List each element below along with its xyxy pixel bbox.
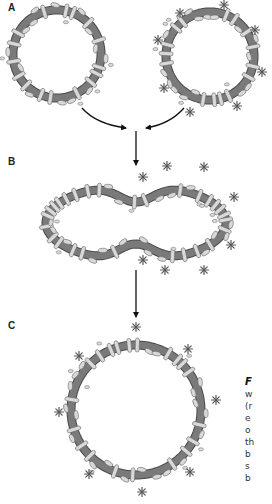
caption-fragment: w [245, 388, 272, 400]
peripheral-protein-icon [98, 248, 107, 253]
transmembrane-protein-icon [212, 93, 217, 107]
arrows [82, 108, 184, 317]
peripheral-protein-icon [6, 47, 11, 56]
panel-label-c: C [8, 320, 15, 331]
asterisk-marker-icon [139, 173, 148, 182]
peripheral-protein-icon [210, 15, 219, 20]
free-protein-icon [179, 101, 184, 104]
membrane-bilayer [166, 12, 254, 100]
vesicle-A-left [0, 2, 113, 106]
panel-label-a: A [8, 2, 15, 13]
asterisk-marker-icon [220, 1, 229, 10]
free-protein-icon [55, 220, 60, 223]
asterisk-marker-icon [132, 323, 141, 332]
arrow-right-curve-arrow-icon [146, 108, 184, 128]
transmembrane-protein-icon [200, 92, 206, 106]
panel-label-b: B [8, 156, 15, 167]
free-protein-icon [199, 204, 204, 207]
transmembrane-protein-icon [132, 195, 137, 209]
asterisk-marker-icon [160, 84, 169, 93]
caption-fragment: b [245, 448, 272, 460]
transmembrane-protein-icon [97, 183, 102, 197]
asterisk-marker-icon [230, 193, 239, 202]
asterisk-marker-icon [75, 352, 84, 361]
free-protein-icon [129, 209, 134, 212]
caption-fragment: b [245, 472, 272, 484]
transmembrane-protein-icon [65, 397, 79, 403]
vesicles [0, 2, 260, 483]
asterisk-marker-icon [139, 256, 148, 265]
free-protein-icon [171, 247, 176, 250]
asterisk-marker-icon [200, 266, 209, 275]
asterisk-marker-icon [227, 241, 236, 250]
caption-fragment: th [245, 436, 272, 448]
free-protein-icon [153, 48, 158, 51]
asterisk-marker-icon [258, 68, 267, 77]
asterisk-marker-icon [154, 36, 163, 45]
asterisk-marker-icon [186, 468, 195, 477]
asterisk-marker-icon [55, 408, 64, 417]
asterisk-marker-icon [200, 163, 209, 172]
asterisk-marker-icon [161, 266, 170, 275]
transmembrane-protein-icon [127, 338, 132, 352]
transmembrane-protein-icon [135, 338, 139, 352]
vesicle-B-fused [39, 183, 234, 264]
free-protein-icon [63, 21, 68, 24]
free-protein-icon [166, 18, 171, 21]
free-protein-icon [56, 251, 61, 254]
caption-fragment: e [245, 412, 272, 424]
free-protein-icon [224, 83, 229, 86]
peripheral-protein-icon [68, 381, 73, 390]
asterisk-marker-icon [176, 9, 185, 18]
free-protein-icon [163, 22, 168, 25]
caption-fragment: o [245, 424, 272, 436]
peripheral-protein-icon [194, 16, 203, 21]
arrow-left-curve-arrow-icon [82, 108, 126, 128]
transmembrane-protein-icon [159, 60, 173, 66]
caption-fragment: (r [245, 400, 272, 412]
free-protein-icon [187, 354, 192, 357]
free-protein-icon [212, 219, 217, 222]
peripheral-protein-icon [103, 54, 108, 63]
transmembrane-protein-icon [170, 249, 175, 263]
caption-fragment: s [245, 460, 272, 472]
membrane-fusion-diagram [0, 0, 272, 504]
free-protein-icon [0, 57, 5, 60]
peripheral-protein-icon [186, 186, 195, 190]
free-protein-icon [199, 448, 204, 451]
caption-fragment: F [245, 376, 272, 388]
vesicle-A-right [153, 8, 260, 107]
free-protein-icon [78, 102, 83, 105]
figure-caption-clipped: F w (r e o th b s b [245, 376, 272, 484]
asterisk-marker-icon [233, 102, 242, 111]
free-protein-icon [85, 385, 90, 388]
transmembrane-protein-icon [177, 183, 183, 197]
free-protein-icon [68, 369, 73, 372]
asterisk-marker-icon [186, 108, 195, 117]
peripheral-protein-icon [93, 44, 98, 53]
free-protein-icon [95, 90, 100, 93]
free-protein-icon [97, 342, 102, 345]
transmembrane-protein-icon [130, 468, 135, 482]
asterisk-marker-icon [184, 345, 193, 354]
transmembrane-protein-icon [159, 51, 173, 56]
transmembrane-protein-icon [47, 90, 53, 104]
asterisk-marker-icon [251, 26, 260, 35]
asterisk-marker-icon [163, 162, 172, 171]
asterisk-marker-icon [212, 396, 221, 405]
asterisk-marker-icon [85, 470, 94, 479]
peripheral-protein-icon [204, 409, 209, 418]
free-protein-icon [108, 63, 113, 66]
free-protein-icon [210, 213, 215, 216]
vesicle-C-result [63, 338, 208, 483]
asterisk-marker-icon [138, 488, 147, 497]
